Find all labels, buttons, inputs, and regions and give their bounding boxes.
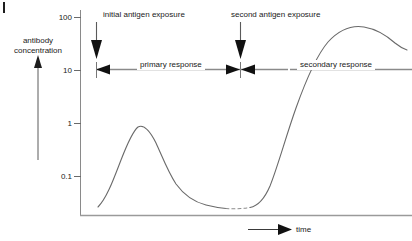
y-tick-label-10: 10 <box>50 66 72 75</box>
y-tick-label-1: 1 <box>50 119 72 128</box>
second-antigen-exposure-label: second antigen exposure <box>231 10 320 20</box>
primary-response-label: primary response <box>137 60 205 70</box>
y-tick-label-0-1: 0.1 <box>46 172 72 181</box>
y-axis-title-line2: concentration <box>0 46 76 56</box>
y-axis-title-line1: antibody <box>0 36 76 46</box>
x-axis-direction-arrow <box>248 224 292 235</box>
curve-trough-dashed <box>226 208 250 209</box>
second-antigen-exposure-arrow <box>235 22 246 59</box>
initial-antigen-exposure-arrow <box>91 22 102 59</box>
y-tick-label-100: 100 <box>50 13 72 22</box>
y-axis-direction-arrow <box>34 55 42 160</box>
curve-primary-response <box>98 126 226 208</box>
x-axis-title: time <box>296 225 311 235</box>
antibody-response-chart: 100 10 1 0.1 antibody concentration time… <box>0 0 412 241</box>
secondary-response-label: secondary response <box>297 60 375 70</box>
initial-antigen-exposure-label: initial antigen exposure <box>103 10 185 20</box>
curve-secondary-response <box>250 27 407 208</box>
